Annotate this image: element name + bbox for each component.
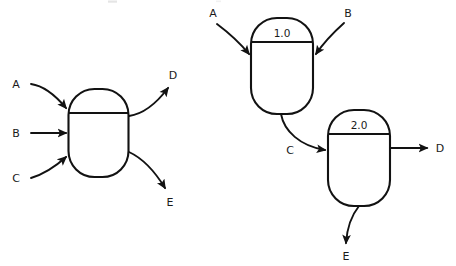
stream-a-right: A	[209, 7, 249, 54]
stream-d-left: D	[129, 69, 177, 116]
process-vessel[interactable]	[69, 89, 129, 177]
stream-c-left: C	[12, 157, 66, 185]
stream-label-a2: A	[209, 7, 217, 20]
stream-label-d2: D	[436, 142, 444, 155]
stream-label-c: C	[12, 172, 20, 185]
stream-label-b2: B	[344, 7, 352, 20]
right-diagram: 1.0 2.0 A B C D E	[209, 7, 444, 263]
stream-label-c2: C	[286, 144, 294, 157]
left-diagram: A B C D E	[12, 69, 177, 209]
stream-d-right: D	[390, 142, 444, 155]
stream-label-d: D	[169, 69, 177, 82]
process-vessel-1[interactable]: 1.0	[251, 18, 313, 114]
stream-label-b: B	[12, 127, 20, 140]
process-vessel-2[interactable]: 2.0	[328, 110, 390, 206]
stream-b-left: B	[12, 127, 66, 140]
stream-e-left: E	[129, 152, 174, 209]
stream-label-e: E	[167, 196, 174, 209]
stream-c-right: C	[281, 114, 325, 157]
stream-b-right: B	[316, 7, 352, 54]
stream-label-e2: E	[343, 250, 350, 263]
stream-a-left: A	[12, 78, 66, 108]
stream-e-right: E	[343, 206, 359, 263]
scan-artifacts	[108, 1, 221, 3]
unit-1-label: 1.0	[274, 27, 291, 39]
flowsheet-canvas: A B C D E 1.0	[0, 0, 456, 266]
stream-label-a: A	[12, 78, 20, 91]
unit-2-label: 2.0	[351, 119, 368, 131]
